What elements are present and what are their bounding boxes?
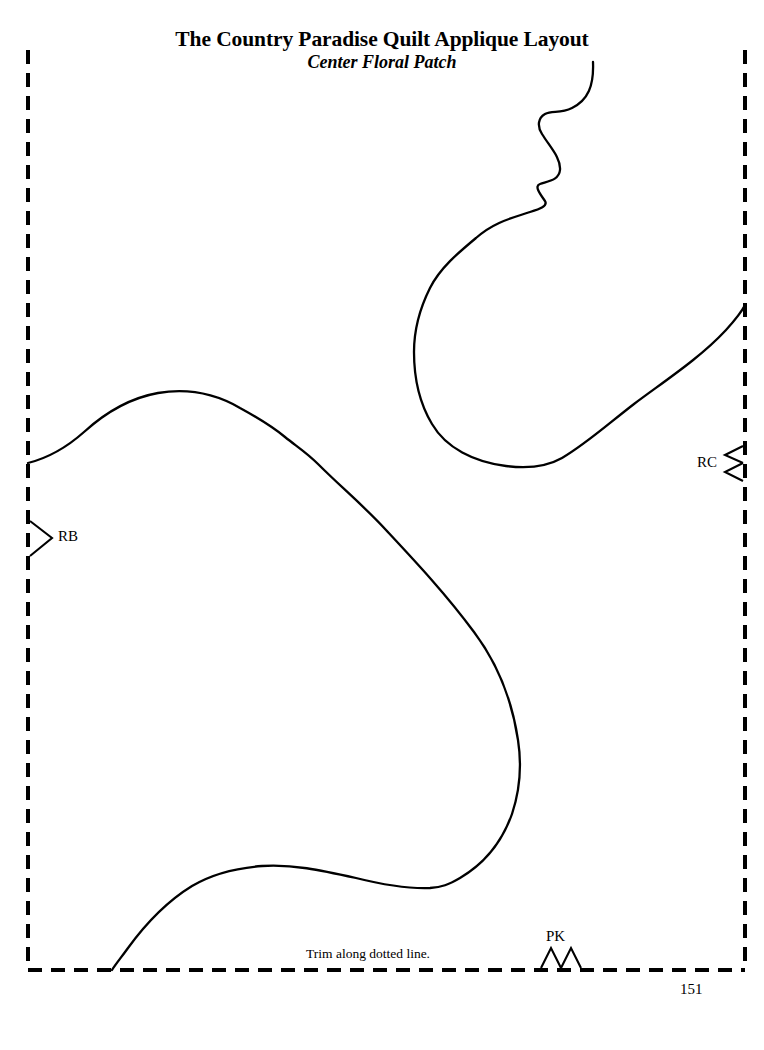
upper-floral-lobe-curve [414, 62, 745, 467]
rb-marker-icon [30, 521, 52, 556]
page-number: 151 [680, 981, 703, 998]
marker-label-pk: PK [546, 928, 565, 945]
lower-large-lobe-curve [28, 391, 520, 970]
marker-label-rb: RB [58, 528, 78, 545]
pattern-page: The Country Paradise Quilt Applique Layo… [0, 0, 764, 1050]
pattern-artwork [0, 0, 764, 1050]
trim-instruction-note: Trim along dotted line. [306, 946, 430, 962]
pk-marker-icon [541, 948, 581, 968]
rc-marker-icon [725, 446, 743, 481]
applique-outlines [28, 62, 745, 970]
marker-label-rc: RC [697, 454, 717, 471]
trim-border [28, 50, 745, 970]
